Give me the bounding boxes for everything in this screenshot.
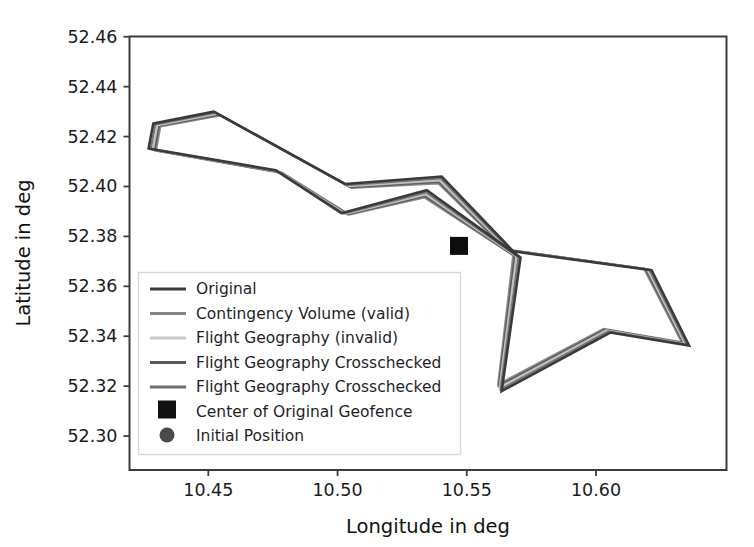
- center-of-geofence-marker: [450, 237, 468, 255]
- y-tick-label: 52.46: [67, 27, 117, 47]
- y-tick-label: 52.40: [67, 176, 117, 196]
- legend-square-swatch: [158, 401, 176, 419]
- y-tick-label: 52.44: [67, 77, 117, 97]
- y-tick-label: 52.34: [67, 326, 117, 346]
- x-tick-label: 10.60: [571, 480, 621, 500]
- x-tick-label: 10.50: [312, 480, 362, 500]
- chart-figure: 10.4510.5010.5510.60 52.3052.3252.3452.3…: [0, 0, 754, 547]
- legend-label: Flight Geography (invalid): [196, 329, 398, 347]
- legend-label: Flight Geography Crosschecked: [196, 378, 441, 396]
- x-axis-title: Longitude in deg: [346, 515, 510, 538]
- y-tick-label: 52.32: [67, 376, 117, 396]
- chart-legend[interactable]: OriginalContingency Volume (valid)Flight…: [139, 273, 461, 455]
- legend-label: Original: [196, 280, 257, 298]
- legend-label: Initial Position: [196, 427, 304, 445]
- y-tick-label: 52.42: [67, 127, 117, 147]
- y-tick-label: 52.38: [67, 226, 117, 246]
- chart-canvas: 10.4510.5010.5510.60 52.3052.3252.3452.3…: [0, 0, 754, 547]
- legend-label: Center of Original Geofence: [196, 403, 412, 421]
- x-tick-label: 10.45: [183, 480, 233, 500]
- legend-label: Contingency Volume (valid): [196, 305, 410, 323]
- legend-label: Flight Geography Crosschecked: [196, 354, 441, 372]
- y-axis-title: Latitude in deg: [12, 179, 35, 326]
- y-tick-label: 52.30: [67, 426, 117, 446]
- y-tick-label: 52.36: [67, 276, 117, 296]
- x-tick-label: 10.55: [442, 480, 492, 500]
- legend-circle-swatch: [160, 428, 175, 443]
